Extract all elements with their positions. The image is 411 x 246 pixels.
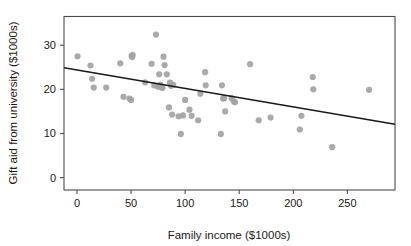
x-tick-label: 100 (176, 197, 194, 209)
data-point (186, 107, 192, 113)
data-point (310, 86, 316, 92)
data-point (182, 97, 188, 103)
y-axis-title: Gift aid from university ($1000s) (7, 21, 19, 184)
data-point (89, 76, 95, 82)
x-axis-title: Family income ($1000s) (168, 229, 291, 241)
data-point (149, 61, 155, 67)
data-point (297, 126, 303, 132)
data-point (87, 62, 93, 68)
data-point (153, 32, 159, 38)
regression-line (64, 68, 395, 125)
x-tick-label: 200 (284, 197, 302, 209)
data-point (164, 71, 170, 77)
data-point (91, 84, 97, 90)
data-point (232, 99, 238, 105)
y-axis-ticks: 0102030 (44, 39, 64, 183)
data-point (166, 104, 172, 110)
data-point (195, 117, 201, 123)
data-point (189, 113, 195, 119)
plot-canvas: 0102030 050100150200250 Family income ($… (0, 0, 411, 246)
scatter-plot-figure: 0102030 050100150200250 Family income ($… (0, 0, 411, 246)
least-squares-line (64, 68, 395, 125)
data-point (117, 60, 123, 66)
data-point (256, 117, 262, 123)
x-tick-label: 250 (338, 197, 356, 209)
data-point (128, 97, 134, 103)
data-point (247, 61, 253, 67)
data-point (74, 53, 80, 59)
data-point (366, 87, 372, 93)
x-tick-label: 50 (125, 197, 137, 209)
plot-frame (64, 17, 395, 191)
data-point (298, 113, 304, 119)
data-point (130, 52, 136, 58)
data-point (159, 85, 165, 91)
data-point (268, 114, 274, 120)
y-tick-label: 0 (50, 172, 56, 184)
data-point (218, 131, 224, 137)
data-point (202, 69, 208, 75)
data-point (169, 111, 175, 117)
y-tick-label: 30 (44, 39, 56, 51)
data-point (160, 54, 166, 60)
x-tick-label: 0 (74, 197, 80, 209)
data-point (161, 62, 167, 68)
data-points-layer (74, 32, 372, 151)
y-tick-label: 20 (44, 83, 56, 95)
y-tick-label: 10 (44, 127, 56, 139)
x-axis-ticks: 050100150200250 (74, 190, 357, 209)
data-point (222, 108, 228, 114)
data-point (310, 74, 316, 80)
plot-border (64, 17, 395, 191)
data-point (178, 131, 184, 137)
x-tick-label: 150 (230, 197, 248, 209)
data-point (180, 112, 186, 118)
data-point (120, 94, 126, 100)
data-point (203, 82, 209, 88)
data-point (156, 71, 162, 77)
data-point (103, 84, 109, 90)
data-point (219, 82, 225, 88)
data-point (329, 144, 335, 150)
